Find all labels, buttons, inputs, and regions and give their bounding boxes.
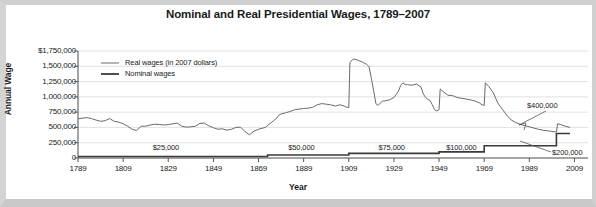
annotation-label-5: $400,000 [527,101,557,110]
chart-figure: Nominal and Real Presidential Wages, 178… [0,0,596,207]
legend-label-0: Real wages (in 2007 dollars) [125,58,217,67]
annotation-label-4: $200,000 [552,148,582,157]
annotation-label-3: $100,000 [446,143,476,152]
legend-swatches [101,63,119,74]
legend-label-1: Nominal wages [125,69,175,78]
annotation-label-0: $25,000 [153,143,179,152]
plot-area [0,0,596,207]
annotation-label-2: $75,000 [378,143,404,152]
annotation-label-1: $50,000 [288,143,314,152]
